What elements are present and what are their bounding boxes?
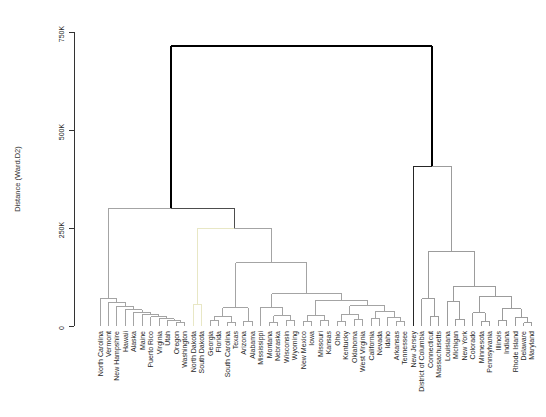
leaf-label: Pennsylvania [486, 331, 494, 373]
leaf-label: South Carolina [224, 331, 231, 377]
leaf-label: South Dakota [198, 331, 205, 374]
leaf-label: Connecticut [427, 331, 434, 368]
leaf-label: Oregon [173, 331, 181, 354]
leaf-label: Indiana [503, 331, 510, 354]
leaf-label: Alabama [249, 331, 256, 359]
leaf-label: Vermont [105, 331, 112, 357]
leaf-label: Delaware [520, 331, 527, 361]
leaf-label: California [368, 331, 375, 361]
leaf-label: Alaska [130, 331, 137, 352]
leaf-label: West Virginia [359, 331, 367, 372]
leaf-label: Illinois [495, 331, 502, 351]
leaf-label: Puerto Rico [147, 331, 154, 368]
y-axis: 0250K500K750K [58, 26, 74, 330]
leaf-label: Arkansas [393, 331, 400, 361]
leaf-label: Idaho [384, 331, 391, 349]
leaf-label: Minnesota [478, 331, 485, 363]
leaf-label: Hawaii [122, 331, 129, 352]
dendrogram-figure: Distance (Ward.D2) 0250K500K750K North C… [0, 0, 546, 417]
leaf-label: Georgia [207, 331, 215, 356]
leaf-label: Ohio [334, 331, 341, 346]
leaf-label: Michigan [452, 331, 460, 359]
leaf-label: Maine [139, 331, 146, 350]
leaf-label: Wyoming [291, 331, 299, 360]
leaf-label: Washington [181, 331, 189, 368]
leaf-label: Nebraska [274, 331, 281, 361]
leaf-label: Louisiana [444, 331, 451, 361]
leaf-label: Massachusetts [435, 331, 442, 378]
leaf-label: Maryland [528, 331, 536, 360]
leaf-label: Utah [164, 331, 171, 346]
leaf-label: Texas [232, 331, 239, 350]
leaf-label: Missouri [317, 331, 324, 358]
leaf-label: New York [461, 331, 468, 361]
leaf-label: Wisconsin [283, 331, 290, 363]
leaf-label: New Hampshire [113, 331, 121, 381]
leaf-label: Kentucky [342, 331, 350, 360]
leaf-label: Montana [266, 331, 273, 358]
leaf-label: Rhode Island [512, 331, 519, 372]
y-axis-title: Distance (Ward.D2) [13, 146, 22, 212]
leaf-label: Arizona [240, 331, 247, 355]
leaf-label: North Dakota [190, 331, 197, 372]
leaf-labels: North CarolinaVermontNew HampshireHawaii… [97, 331, 537, 392]
leaf-label: Mississippi [257, 331, 265, 365]
leaf-label: Virginia [156, 331, 164, 354]
leaf-label: Nevada [376, 331, 383, 355]
y-axis-tick-label: 500K [58, 124, 65, 141]
leaf-label: District of Columbia [418, 331, 425, 392]
leaf-label: Tennessee [401, 331, 408, 365]
leaf-label: Colorado [469, 331, 476, 360]
leaf-label: Oklahoma [351, 331, 358, 363]
leaf-label: New Jersey [410, 331, 418, 368]
y-axis-tick-label: 750K [58, 26, 65, 43]
leaf-label: Florida [215, 331, 222, 353]
leaf-label: New Mexico [300, 331, 307, 369]
dendrogram-links [100, 46, 532, 326]
y-axis-tick-label: 250K [58, 222, 65, 239]
leaf-label: Iowa [308, 331, 315, 346]
leaf-label: Kansas [325, 331, 332, 355]
y-axis-tick-label: 0 [58, 326, 65, 330]
dendrogram-canvas: Distance (Ward.D2) 0250K500K750K North C… [0, 0, 546, 417]
leaf-label: North Carolina [97, 331, 104, 376]
